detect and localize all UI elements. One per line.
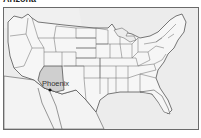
phoenix-city-dot [48,88,51,91]
map-title: Arizona [3,0,36,4]
phoenix-city-label: Phoenix [42,79,69,88]
us-map: Phoenix [3,7,199,130]
us-map-svg [4,8,198,129]
